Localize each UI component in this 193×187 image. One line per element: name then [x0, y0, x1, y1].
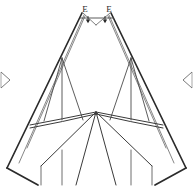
inner-rafter-left-secondary [27, 16, 85, 148]
inner-rafter-right-secondary [108, 16, 166, 148]
load-label-right: E [106, 4, 112, 14]
load-arrow-right-head [103, 19, 107, 23]
load-arrow-right [103, 16, 107, 23]
figure-caption [0, 179, 193, 187]
interior-truss-group [44, 58, 149, 121]
load-label-left: E [82, 4, 88, 14]
outer-rafter-right [111, 13, 186, 168]
load-arrow-group [86, 16, 107, 23]
center-strut-right [96, 112, 116, 185]
outer-rafter-left [7, 13, 82, 168]
load-arrow-left-head [86, 19, 90, 23]
truss-right-inner-leg [110, 58, 131, 120]
support-marker-left-icon [1, 72, 10, 88]
apex-chevron-right-leg [96, 13, 110, 25]
frame-diagram-svg: E E [0, 0, 193, 187]
support-marker-right-chevron [183, 72, 192, 88]
outer-rafter-group [7, 13, 186, 168]
truss-left-inner-leg [62, 58, 83, 120]
truss-right-outer-leg [131, 58, 149, 121]
apex-chevron-left-leg [83, 13, 96, 25]
inner-rafter-group [19, 15, 174, 163]
support-marker-right-icon [183, 72, 192, 88]
inner-rafter-right [109, 15, 174, 163]
load-arrow-left [86, 16, 90, 23]
support-marker-left-chevron [1, 72, 10, 88]
figure-container: E E [0, 0, 193, 187]
apex-chevron-group [83, 13, 110, 25]
truss-left-outer-leg [44, 58, 62, 121]
inner-rafter-left [19, 15, 84, 163]
center-strut-left [76, 112, 96, 185]
support-marker-group [1, 72, 192, 88]
